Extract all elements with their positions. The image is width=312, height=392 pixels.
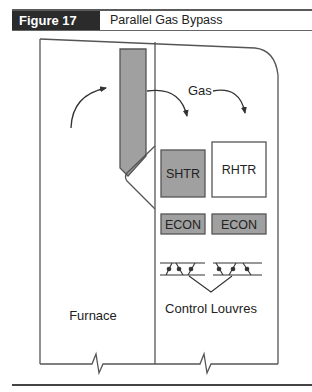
shtr-label: SHTR <box>166 167 200 181</box>
rhtr-block: RHTR <box>212 142 266 197</box>
furnace-nose-baffle <box>120 49 146 176</box>
gas-label: Gas <box>188 83 212 98</box>
control-louvres <box>160 263 262 292</box>
gas-flow-arrow-right <box>213 90 245 113</box>
econ-left-label: ECON <box>165 218 201 232</box>
rhtr-label: RHTR <box>222 163 257 177</box>
footer-rule <box>12 384 312 386</box>
econ-right-block: ECON <box>212 214 266 234</box>
furnace-flow-arrow <box>71 88 106 128</box>
econ-left-block: ECON <box>161 214 205 234</box>
econ-right-label: ECON <box>221 218 257 232</box>
shtr-block: SHTR <box>161 150 205 197</box>
control-louvres-label: Control Louvres <box>165 301 257 316</box>
furnace-label: Furnace <box>69 308 117 323</box>
gas-flow-arrow-left <box>147 90 187 116</box>
boiler-diagram: Gas SHTR RHTR ECON ECON <box>0 0 312 392</box>
